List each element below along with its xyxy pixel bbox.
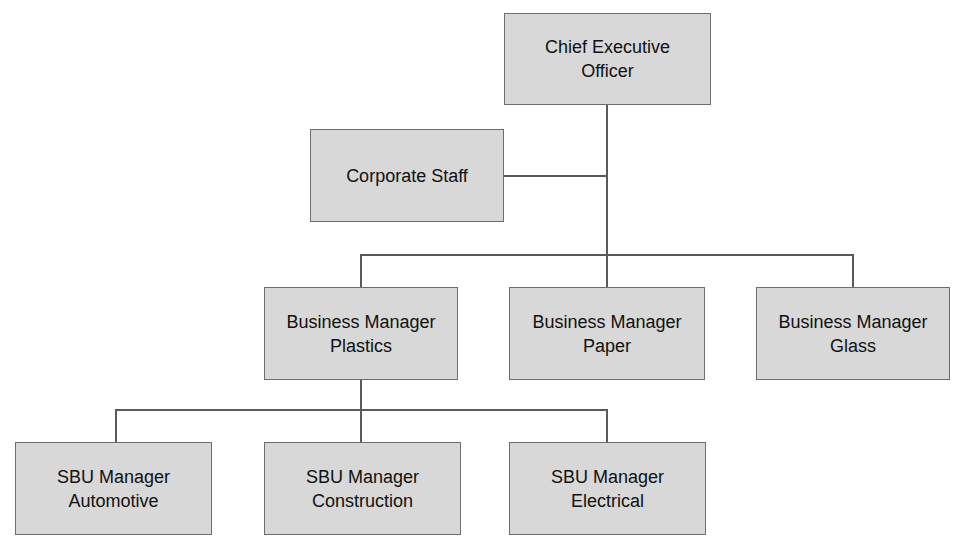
connector-ceo-down <box>606 105 608 287</box>
connector-sbu-automotive <box>115 409 117 442</box>
node-label: Officer <box>581 59 634 83</box>
node-label: SBU Manager <box>306 465 419 489</box>
node-bm-glass: Business Manager Glass <box>756 287 950 380</box>
node-corporate-staff: Corporate Staff <box>310 129 504 222</box>
node-label: Electrical <box>571 489 644 513</box>
node-label: Business Manager <box>286 310 435 334</box>
node-sbu-electrical: SBU Manager Electrical <box>509 442 706 535</box>
node-label: Glass <box>830 334 876 358</box>
node-sbu-automotive: SBU Manager Automotive <box>15 442 212 535</box>
node-label: Business Manager <box>778 310 927 334</box>
node-label: SBU Manager <box>551 465 664 489</box>
connector-bm-plastics <box>360 254 362 287</box>
node-label: Business Manager <box>532 310 681 334</box>
node-bm-paper: Business Manager Paper <box>509 287 705 380</box>
connector-bm-glass <box>852 254 854 287</box>
node-label: Construction <box>312 489 413 513</box>
node-label: Paper <box>583 334 631 358</box>
connector-plastics-down <box>360 380 362 442</box>
node-sbu-construction: SBU Manager Construction <box>264 442 461 535</box>
node-ceo: Chief Executive Officer <box>504 13 711 105</box>
connector-sbu-electrical <box>606 409 608 442</box>
node-label: Automotive <box>68 489 158 513</box>
node-label: Corporate Staff <box>346 164 468 188</box>
node-label: Chief Executive <box>545 35 670 59</box>
connector-bm-row <box>360 254 854 256</box>
connector-sbu-row <box>115 409 608 411</box>
connector-staff <box>504 175 607 177</box>
node-label: Plastics <box>330 334 392 358</box>
node-label: SBU Manager <box>57 465 170 489</box>
node-bm-plastics: Business Manager Plastics <box>264 287 458 380</box>
